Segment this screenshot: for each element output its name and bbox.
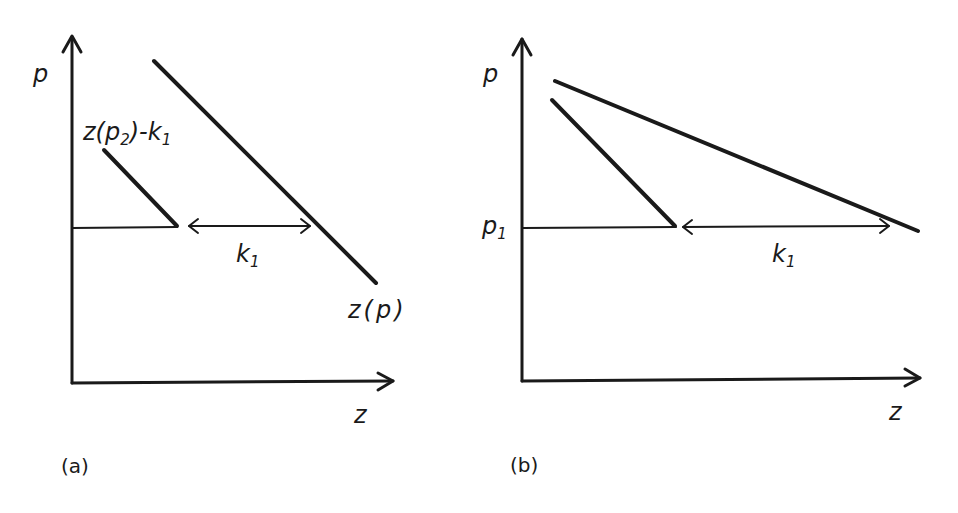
label-part: p <box>482 212 497 240</box>
panel-b-level-line <box>523 227 676 228</box>
panel-b-caption: (b) <box>510 455 538 475</box>
label-subscript: 1 <box>786 253 796 271</box>
panel-b-k1-label: k1 <box>772 242 795 270</box>
label-subscript: 1 <box>497 225 507 243</box>
panel-b-shifted-curve <box>552 100 675 226</box>
panel-a-curve-zp <box>154 61 376 283</box>
panel-b-x-axis-label: z <box>889 400 902 424</box>
diagram-canvas <box>0 0 958 513</box>
panel-b-axes <box>513 39 920 386</box>
label-part: )-k <box>130 118 162 146</box>
panel-a-axes <box>63 36 393 390</box>
panel-a-level-line <box>72 227 177 228</box>
label-subscript: 1 <box>250 253 260 271</box>
panel-a-shifted-curve <box>104 150 177 226</box>
panel-a-caption: (a) <box>61 456 89 476</box>
panel-a-curve-label: z(p) <box>348 298 407 322</box>
label-part: k <box>236 240 250 268</box>
panel-a-shifted-curve-label: z(p2)-k1 <box>83 120 171 148</box>
panel-a-y-axis-label: p <box>33 62 48 86</box>
label-part: z(p <box>83 118 120 146</box>
panel-a-k1-arrow <box>189 219 310 233</box>
panel-a-k1-label: k1 <box>236 242 259 270</box>
panel-b-y-axis-label: p <box>483 62 498 86</box>
label-subscript: 2 <box>120 131 130 149</box>
label-part: k <box>772 240 786 268</box>
panel-a-x-axis-label: z <box>354 403 367 427</box>
panel-b-k1-arrow <box>683 219 889 234</box>
panel-b-p1-label: p1 <box>482 214 507 242</box>
label-subscript: 1 <box>162 131 172 149</box>
